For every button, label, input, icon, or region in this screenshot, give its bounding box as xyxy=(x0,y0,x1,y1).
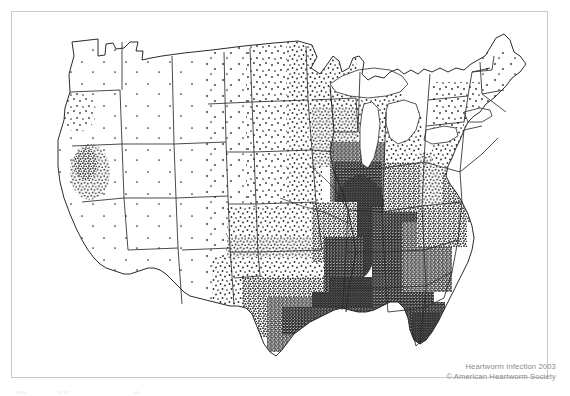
scan-artifact xyxy=(12,386,242,394)
figure-caption: Heartworm Infection 2003 © American Hear… xyxy=(446,362,556,382)
caption-line-copyright: © American Heartworm Society xyxy=(446,372,556,382)
us-dot-density-map xyxy=(12,12,547,377)
caption-line-title: Heartworm Infection 2003 xyxy=(446,362,556,372)
map-image xyxy=(12,12,547,377)
figure-root: Heartworm Infection 2003 © American Hear… xyxy=(0,0,570,396)
stipple-layer xyxy=(12,12,547,377)
